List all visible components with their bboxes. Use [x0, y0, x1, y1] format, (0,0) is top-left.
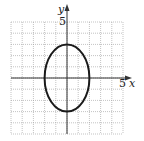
chart-canvas: y 5 5 x	[0, 0, 144, 141]
axes	[11, 4, 132, 134]
y-axis-arrow-icon	[65, 4, 70, 11]
x-axis-label: x	[129, 77, 136, 90]
y-tick-label: 5	[59, 15, 66, 28]
x-tick-label: 5	[119, 77, 126, 90]
